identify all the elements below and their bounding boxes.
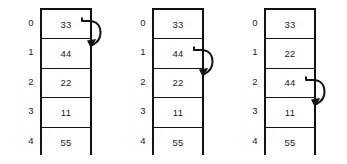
index-label-2: 2 [246, 67, 264, 96]
array-cell: 11 [154, 98, 202, 127]
cell-value: 22 [173, 77, 184, 88]
cell-value: 33 [173, 19, 184, 30]
index-label-1: 1 [134, 37, 152, 66]
cell-value: 33 [61, 19, 72, 30]
array-swap-diagram: 0 1 2 3 4 33 44 22 11 55 0 1 2 3 4 [0, 0, 347, 164]
array-cell: 33 [42, 10, 90, 39]
index-label-1: 1 [22, 37, 40, 66]
array-cell: 22 [266, 39, 314, 68]
array-cell: 55 [154, 128, 202, 157]
cell-value: 22 [285, 48, 296, 59]
index-label-4: 4 [134, 126, 152, 155]
index-label-4: 4 [22, 126, 40, 155]
cell-value: 44 [285, 77, 296, 88]
array-cell: 44 [154, 39, 202, 68]
cell-value: 55 [285, 137, 296, 148]
cell-value: 22 [61, 77, 72, 88]
array-cell: 33 [154, 10, 202, 39]
cell-value: 44 [61, 48, 72, 59]
index-label-0: 0 [22, 8, 40, 37]
index-label-0: 0 [246, 8, 264, 37]
array-cell: 11 [42, 98, 90, 127]
index-label-2: 2 [134, 67, 152, 96]
array-cell: 44 [266, 69, 314, 98]
cell-value: 11 [173, 107, 183, 118]
array-cell: 22 [42, 69, 90, 98]
array-box: 33 22 44 11 55 [264, 8, 316, 155]
index-column: 0 1 2 3 4 [22, 8, 40, 155]
array-box: 33 44 22 11 55 [152, 8, 204, 155]
array-cell: 33 [266, 10, 314, 39]
cell-value: 11 [61, 107, 71, 118]
cell-value: 11 [285, 107, 295, 118]
index-column: 0 1 2 3 4 [134, 8, 152, 155]
cell-value: 44 [173, 48, 184, 59]
index-label-4: 4 [246, 126, 264, 155]
cell-value: 55 [173, 137, 184, 148]
index-label-3: 3 [134, 96, 152, 125]
array-cell: 22 [154, 69, 202, 98]
cell-value: 33 [285, 19, 296, 30]
array-cell: 55 [266, 128, 314, 157]
index-label-2: 2 [22, 67, 40, 96]
index-label-0: 0 [134, 8, 152, 37]
index-label-1: 1 [246, 37, 264, 66]
array-box: 33 44 22 11 55 [40, 8, 92, 155]
array-cell: 11 [266, 98, 314, 127]
array-cell: 55 [42, 128, 90, 157]
index-label-3: 3 [22, 96, 40, 125]
array-cell: 44 [42, 39, 90, 68]
cell-value: 55 [61, 137, 72, 148]
index-label-3: 3 [246, 96, 264, 125]
index-column: 0 1 2 3 4 [246, 8, 264, 155]
